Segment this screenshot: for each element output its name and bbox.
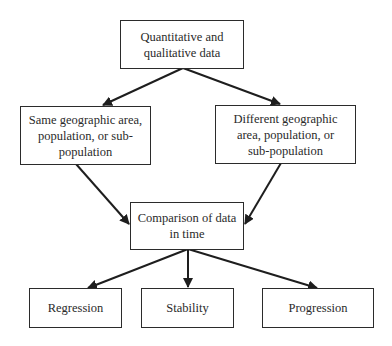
arrow-different-to-comparison — [245, 163, 281, 224]
node-quantitative-qualitative-data: Quantitative and qualitative data — [120, 20, 244, 69]
node-text-line: Same geographic area, — [29, 112, 142, 128]
node-text-line: qualitative data — [141, 45, 224, 61]
node-text-line: Regression — [48, 300, 104, 316]
node-text-line: Progression — [288, 300, 347, 316]
arrow-same-to-comparison — [76, 164, 129, 224]
node-text-line: Different geographic — [233, 111, 337, 127]
node-text-line: Quantitative and — [141, 29, 224, 45]
arrow-data-to-different — [183, 68, 280, 104]
node-progression: Progression — [262, 288, 374, 328]
node-comparison-in-time: Comparison of data in time — [130, 202, 244, 250]
node-text-line: sub-population — [233, 143, 337, 159]
node-text-line: area, population, or — [233, 127, 337, 143]
arrow-comparison-to-progression — [188, 249, 317, 288]
arrow-comparison-to-regression — [88, 249, 188, 288]
node-same-geographic-area: Same geographic area, population, or sub… — [20, 106, 151, 165]
node-text-line: population, or sub- — [29, 128, 142, 144]
arrow-data-to-same — [103, 68, 183, 105]
node-text-line: population — [29, 144, 142, 160]
node-stability: Stability — [141, 288, 234, 328]
node-text-line: Stability — [166, 300, 208, 316]
node-different-geographic-area: Different geographic area, population, o… — [215, 105, 356, 164]
node-regression: Regression — [29, 288, 122, 328]
node-text-line: Comparison of data — [138, 210, 237, 226]
node-text-line: in time — [138, 226, 237, 242]
